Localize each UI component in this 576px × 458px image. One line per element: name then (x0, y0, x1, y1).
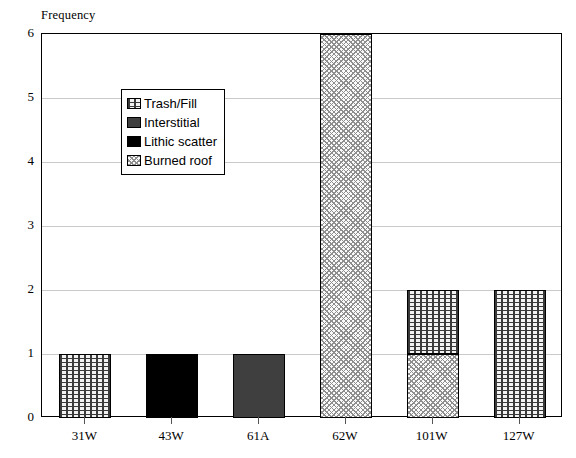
legend-swatch-icon (127, 98, 141, 109)
gridline-3 (42, 226, 561, 227)
bar-segment (233, 354, 285, 418)
y-tick-label-4: 4 (8, 153, 34, 169)
x-tick-31W (84, 417, 85, 424)
bar-segment (59, 354, 111, 418)
legend-item: Trash/Fill (127, 94, 217, 113)
y-tick-label-0: 0 (8, 409, 34, 425)
x-tick-43W (171, 417, 172, 424)
y-tick-label-2: 2 (8, 281, 34, 297)
y-tick-label-1: 1 (8, 345, 34, 361)
x-tick-101W (432, 417, 433, 424)
legend-swatch-icon (127, 136, 141, 147)
legend-swatch-icon (127, 117, 141, 128)
bar-segment (146, 354, 198, 418)
x-tick-61A (258, 417, 259, 424)
x-tick-62W (345, 417, 346, 424)
legend-item: Interstitial (127, 113, 217, 132)
bar-segment (407, 290, 459, 354)
y-axis-title: Frequency (41, 8, 96, 23)
plot-area (41, 33, 562, 417)
x-tick-label-43W: 43W (159, 428, 184, 444)
gridline-1 (42, 354, 561, 355)
bar-segment (494, 290, 546, 418)
y-tick-label-6: 6 (8, 25, 34, 41)
gridline-5 (42, 98, 561, 99)
legend-swatch-icon (127, 155, 141, 166)
legend-item-label: Burned roof (144, 154, 212, 167)
x-tick-label-61A: 61A (247, 428, 269, 444)
legend-item: Burned roof (127, 151, 217, 170)
bar-segment (407, 354, 459, 418)
legend-item: Lithic scatter (127, 132, 217, 151)
x-tick-label-101W: 101W (416, 428, 448, 444)
gridline-2 (42, 290, 561, 291)
legend-item-label: Interstitial (144, 116, 200, 129)
legend-item-label: Trash/Fill (144, 97, 197, 110)
x-tick-label-127W: 127W (503, 428, 535, 444)
y-tick-label-3: 3 (8, 217, 34, 233)
legend-item-label: Lithic scatter (144, 135, 217, 148)
legend: Trash/FillInterstitialLithic scatterBurn… (121, 89, 225, 175)
x-tick-label-62W: 62W (332, 428, 357, 444)
y-tick-label-5: 5 (8, 89, 34, 105)
x-tick-127W (519, 417, 520, 424)
frequency-bar-chart: Frequency 0123456 31W43W61A62W101W127W T… (0, 0, 576, 458)
gridline-4 (42, 162, 561, 163)
x-tick-label-31W: 31W (72, 428, 97, 444)
bar-segment (320, 34, 372, 418)
